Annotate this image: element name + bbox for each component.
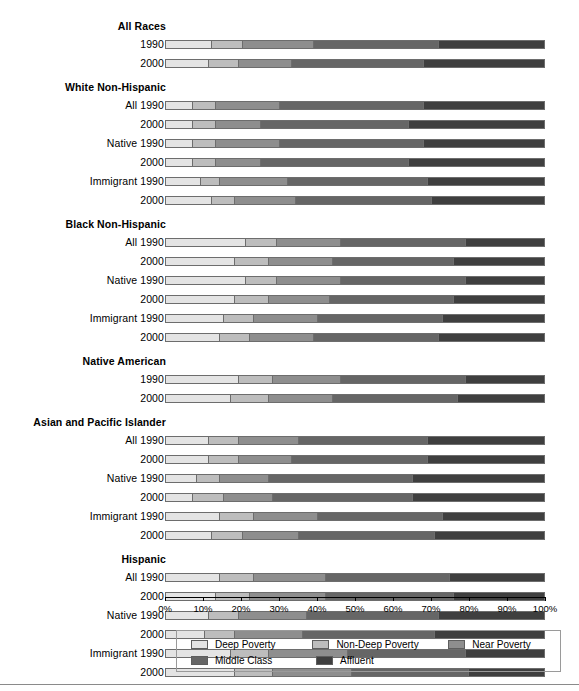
bar-segment [166, 121, 192, 128]
legend-label: Deep Poverty [215, 639, 276, 650]
bar-segment [166, 376, 238, 383]
bar-segment [166, 41, 211, 48]
bar-segment [268, 258, 332, 265]
bar-segment [166, 532, 211, 539]
bar-segment [291, 456, 427, 463]
group-heading: Black Non-Hispanic [66, 218, 166, 230]
bar-segment [313, 334, 438, 341]
stacked-bar [165, 276, 545, 285]
bar-segment [249, 334, 313, 341]
bar-segment [192, 121, 215, 128]
stacked-bar-chart: All Races19902000White Non-HispanicAll 1… [0, 0, 579, 691]
stacked-bar [165, 238, 545, 247]
bar-segment [219, 574, 253, 581]
legend-label: Middle Class [215, 655, 272, 666]
bar-segment [438, 334, 544, 341]
stacked-bar [165, 139, 545, 148]
bar-segment [166, 334, 219, 341]
bar-segment [465, 239, 544, 246]
bar-segment [427, 178, 544, 185]
legend-item-deep-poverty: Deep Poverty [191, 639, 312, 650]
bar-segment [166, 296, 234, 303]
x-tick-label: 40% [297, 603, 337, 614]
bar-segment [408, 159, 544, 166]
row-label: 2000 [140, 590, 164, 602]
bar-segment [215, 121, 260, 128]
bar-segment [208, 60, 238, 67]
x-tick-label: 70% [411, 603, 451, 614]
row-label: Immigrant 1990 [90, 647, 164, 659]
x-tick-label: 20% [221, 603, 261, 614]
bar-segment [332, 395, 457, 402]
bar-segment [427, 437, 544, 444]
bar-segment [260, 121, 407, 128]
group-heading: Native American [83, 355, 166, 367]
x-tick-label: 50% [335, 603, 375, 614]
bar-segment [295, 197, 431, 204]
row-label: All 1990 [125, 236, 164, 248]
bar-segment [211, 197, 234, 204]
row-label: 2000 [140, 118, 164, 130]
bar-segment [325, 574, 450, 581]
bar-segment [423, 140, 544, 147]
bar-segment [230, 395, 268, 402]
row-label: Native 1990 [107, 472, 164, 484]
bar-segment [234, 197, 294, 204]
legend-row-1: Deep Poverty Non-Deep Poverty Near Pover… [191, 636, 560, 652]
row-label: 2000 [140, 491, 164, 503]
bar-segment [268, 296, 328, 303]
bar-segment [253, 315, 317, 322]
bar-segment [166, 140, 192, 147]
x-tick-label: 10% [183, 603, 223, 614]
bar-segment [238, 376, 272, 383]
legend-item-near-poverty: Near Poverty [448, 639, 560, 650]
bar-segment [412, 475, 544, 482]
bar-segment [166, 574, 219, 581]
row-label: 2000 [140, 628, 164, 640]
bar-segment [238, 437, 298, 444]
stacked-bar [165, 59, 545, 68]
bar-segment [272, 494, 412, 501]
bar-segment [192, 140, 215, 147]
stacked-bar [165, 474, 545, 483]
bar-segment [317, 513, 442, 520]
bar-segment [457, 395, 544, 402]
row-label: All 1990 [125, 434, 164, 446]
bar-segment [298, 437, 427, 444]
row-label: 2000 [140, 666, 164, 678]
row-label: Immigrant 1990 [90, 175, 164, 187]
stacked-bar [165, 436, 545, 445]
x-tick [165, 597, 166, 601]
legend-item-non-deep-poverty: Non-Deep Poverty [312, 639, 448, 650]
bar-segment [211, 532, 241, 539]
x-tick-label: 90% [487, 603, 527, 614]
bar-segment [196, 475, 219, 482]
bar-segment [438, 41, 544, 48]
bar-segment [166, 456, 208, 463]
bar-segment [340, 239, 465, 246]
bar-segment [166, 315, 223, 322]
x-tick [431, 597, 432, 601]
legend-swatch-icon [191, 640, 208, 649]
group-heading: Hispanic [121, 553, 166, 565]
bar-segment [298, 532, 434, 539]
bar-segment [423, 60, 544, 67]
bar-segment [276, 277, 340, 284]
stacked-bar [165, 493, 545, 502]
bar-segment [442, 315, 544, 322]
bar-segment [166, 178, 200, 185]
legend-label: Affluent [340, 655, 374, 666]
bar-segment [219, 475, 268, 482]
bar-segment [192, 159, 215, 166]
bar-segment [287, 178, 427, 185]
bar-segment [427, 456, 544, 463]
bar-segment [245, 277, 275, 284]
legend-item-affluent: Affluent [316, 655, 456, 666]
bar-segment [332, 258, 453, 265]
bar-segment [268, 395, 332, 402]
row-label: 2000 [140, 255, 164, 267]
x-tick-label: 60% [373, 603, 413, 614]
row-label: All 1990 [125, 571, 164, 583]
bar-segment [279, 140, 423, 147]
stacked-bar [165, 177, 545, 186]
